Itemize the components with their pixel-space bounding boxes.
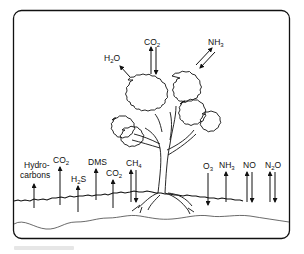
label-nh3-soil: NH3 — [219, 160, 235, 171]
gas-exchange-diagram: H2O CO2 NH3 Hydro- carbons CO2 H2S DMS C… — [0, 0, 304, 254]
label-ch4: CH4 — [126, 158, 142, 169]
label-h2o: H2O — [104, 53, 120, 64]
nh3-up-arrow — [196, 48, 212, 65]
label-no: NO — [243, 160, 256, 170]
label-co2-b: CO2 — [106, 168, 123, 179]
label-o3: O3 — [203, 161, 214, 172]
label-co2-canopy: CO2 — [144, 37, 161, 48]
ground-surface-line — [14, 191, 243, 201]
label-dms: DMS — [88, 157, 107, 167]
canopy-flux-arrows — [120, 47, 215, 77]
figure-caption-faded — [14, 246, 74, 250]
h2o-arrow — [120, 66, 130, 77]
label-nh3-canopy: NH3 — [208, 37, 224, 48]
nh3-down-arrow — [200, 52, 215, 68]
label-co2-a: CO2 — [53, 155, 70, 166]
label-hydrocarbons: Hydro- — [24, 160, 50, 170]
label-hydrocarbons-2: carbons — [20, 170, 50, 180]
label-n2o: N2O — [265, 160, 281, 171]
subsoil-line — [14, 215, 289, 229]
label-h2s: H2S — [71, 174, 86, 185]
